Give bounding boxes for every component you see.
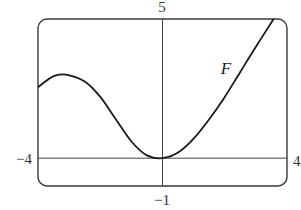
curve-label-F: F: [220, 59, 232, 78]
y-min-label: −1: [154, 192, 170, 208]
x-min-label: −4: [16, 151, 32, 167]
x-max-label: 4: [293, 153, 301, 169]
chart-canvas: ) 5 −1 −4 4 F: [0, 0, 301, 210]
curve-F: [38, 19, 274, 158]
y-max-label: 5: [158, 0, 166, 15]
